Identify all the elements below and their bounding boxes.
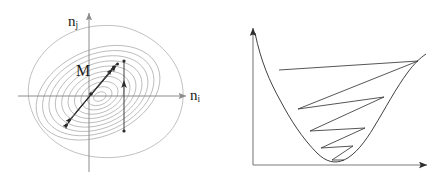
energy-axes xyxy=(253,28,427,165)
energy-curve-svg xyxy=(222,0,445,187)
contour-plot-svg xyxy=(0,0,222,187)
two-panel-scientific-figure: nj ni M xyxy=(0,0,445,187)
vector-endpoint-dot xyxy=(68,119,71,122)
vibrational-energy-levels xyxy=(279,61,418,160)
energy-level-connector-2 xyxy=(321,128,365,148)
energy-level-line-2 xyxy=(310,128,365,131)
energy-level-connector-1 xyxy=(332,146,353,160)
anharmonic-potential-energy-curve: Energy r xyxy=(222,0,445,187)
vector-endpoint-dot xyxy=(122,129,125,132)
contour-rings xyxy=(21,18,189,166)
vector-endpoint-dot xyxy=(65,124,68,127)
energy-level-connector-4 xyxy=(298,61,418,109)
potential-well-curve xyxy=(255,33,426,162)
potential-energy-surface-contour-plot: nj ni M xyxy=(0,0,222,187)
contour-axes xyxy=(18,13,186,172)
x-axis-label-ni: ni xyxy=(190,88,200,105)
minimum-label-m: M xyxy=(76,63,90,79)
minimum-point-marker xyxy=(89,92,93,96)
vector-endpoint-dot xyxy=(122,59,125,62)
energy-level-line-4 xyxy=(279,61,418,70)
energy-level-line-1 xyxy=(321,146,353,148)
y-axis-label-nj: nj xyxy=(68,14,78,31)
